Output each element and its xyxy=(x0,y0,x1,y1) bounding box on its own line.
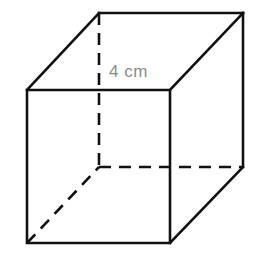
edge-length-label: 4 cm xyxy=(109,62,148,82)
cube-drawing xyxy=(0,0,258,261)
cube-figure: 4 cm xyxy=(0,0,258,261)
